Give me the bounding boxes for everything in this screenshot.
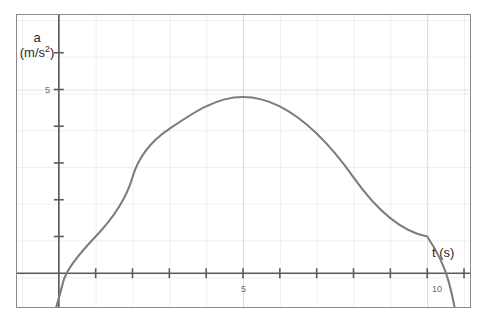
curve-layer: [17, 15, 470, 307]
acceleration-time-graph: a (m/s2) t (s) 5 5 10: [0, 0, 492, 323]
acceleration-curve: [56, 97, 454, 307]
plot-frame: a (m/s2) t (s) 5 5 10: [16, 14, 471, 308]
